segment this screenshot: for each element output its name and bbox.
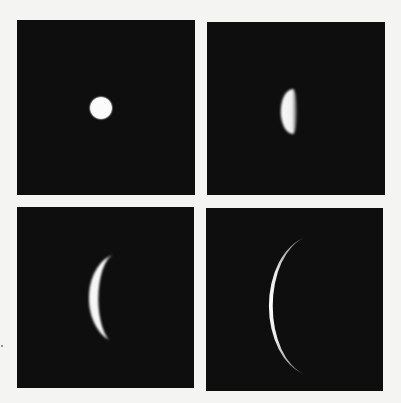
- panel-thin-crescent-phase: [206, 208, 383, 391]
- planet-full-disk: [17, 20, 195, 195]
- panel-half-phase: [207, 22, 385, 195]
- planet-crescent: [17, 207, 194, 388]
- panel-full-phase: [17, 20, 195, 195]
- planet-half-disk: [207, 22, 385, 195]
- planet-thin-crescent: [206, 208, 383, 391]
- stray-mark: [1, 345, 3, 347]
- panel-crescent-phase: [17, 207, 194, 388]
